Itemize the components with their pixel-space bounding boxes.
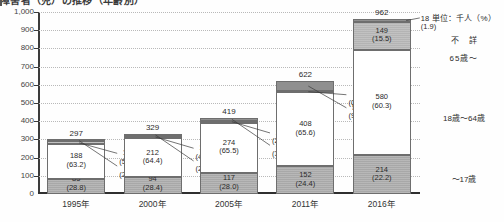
segment-age-18-64[interactable]: 212(64.4) bbox=[124, 138, 182, 177]
y-tick-mark bbox=[34, 158, 39, 159]
legend-item-age-65-plus: 65歳～ bbox=[424, 54, 504, 63]
segment-age-0-17[interactable]: 152(24.4) bbox=[276, 166, 334, 194]
y-tick-label: 1,000 bbox=[0, 8, 34, 16]
bar-value: 117 bbox=[223, 173, 235, 182]
segment-age-0-17[interactable]: 94(28.4) bbox=[124, 177, 182, 194]
segment-age-0-17[interactable]: 117(28.0) bbox=[200, 173, 258, 194]
bar-total-label: 297 bbox=[47, 129, 105, 138]
bar-percent: (60.3) bbox=[354, 102, 410, 111]
bar-percent: (64.4) bbox=[125, 157, 181, 166]
y-tick-label: 600 bbox=[0, 81, 34, 89]
bar-2000年[interactable]: 94(28.4)212(64.4) bbox=[124, 134, 182, 194]
bar-percent: (15.5) bbox=[354, 35, 410, 44]
label-age-18-64: 580(60.3) bbox=[354, 93, 410, 110]
segment-unknown[interactable] bbox=[47, 139, 105, 141]
segment-age-18-64[interactable]: 580(60.3) bbox=[353, 50, 411, 156]
segment-age-0-17[interactable]: 214(22.2) bbox=[353, 155, 411, 194]
y-tick-label: 200 bbox=[0, 154, 34, 162]
bar-total-label: 962 bbox=[353, 8, 411, 17]
plot-area: 85(28.8)188(63.2)29716(5.4)8(2.6)94(28.4… bbox=[38, 12, 420, 194]
bar-value: 408 bbox=[299, 119, 312, 128]
bar-2005年[interactable]: 117(28.0)274(65.5) bbox=[200, 118, 258, 194]
segment-unknown[interactable] bbox=[124, 134, 182, 136]
bar-2011年[interactable]: 152(24.4)408(65.6) bbox=[276, 81, 334, 194]
y-tick-mark bbox=[34, 67, 39, 68]
legend: 単位：千人（%） 不 詳 65歳～ 18歳～64歳 ～17歳 bbox=[424, 12, 504, 194]
segment-unknown[interactable] bbox=[353, 19, 411, 22]
segment-age-65-plus[interactable]: 149(15.5) bbox=[353, 22, 411, 49]
y-axis-ticks: 1,0009008007006005004003002001000 bbox=[0, 12, 34, 194]
bar-1995年[interactable]: 85(28.8)188(63.2) bbox=[47, 140, 105, 194]
segment-age-18-64[interactable]: 274(65.5) bbox=[200, 123, 258, 173]
bar-percent: (24.4) bbox=[277, 180, 333, 189]
segment-unknown[interactable] bbox=[276, 81, 334, 92]
y-tick-mark bbox=[34, 30, 39, 31]
y-tick-mark bbox=[34, 121, 39, 122]
bar-total-label: 329 bbox=[124, 123, 182, 132]
label-age-18-64: 212(64.4) bbox=[125, 149, 181, 166]
y-tick-mark bbox=[34, 176, 39, 177]
y-tick-mark bbox=[34, 103, 39, 104]
x-tick-label: 2000年 bbox=[123, 200, 183, 209]
page-title: 障害者（児）の推移（年齢別） bbox=[0, 0, 232, 6]
bar-total-label: 419 bbox=[200, 107, 258, 116]
bar-total-label: 622 bbox=[276, 70, 334, 79]
label-age-0-17: 94(28.4) bbox=[125, 175, 181, 192]
label-age-18-64: 408(65.6) bbox=[277, 120, 333, 137]
bar-percent: (65.5) bbox=[201, 147, 257, 156]
segment-age-65-plus[interactable] bbox=[124, 136, 182, 139]
bar-percent: (65.6) bbox=[277, 129, 333, 138]
bar-percent: (22.2) bbox=[354, 174, 410, 183]
x-tick-label: 2011年 bbox=[275, 200, 335, 209]
segment-age-18-64[interactable]: 188(63.2) bbox=[47, 144, 105, 178]
y-tick-mark bbox=[34, 85, 39, 86]
bar-percent: (28.0) bbox=[201, 183, 257, 192]
segment-age-65-plus[interactable] bbox=[200, 121, 258, 123]
segment-age-65-plus[interactable] bbox=[47, 141, 105, 144]
bar-2016年[interactable]: 214(22.2)580(60.3)149(15.5) bbox=[353, 19, 411, 194]
y-tick-label: 700 bbox=[0, 63, 34, 71]
x-tick-label: 2016年 bbox=[352, 200, 412, 209]
segment-age-0-17[interactable]: 85(28.8) bbox=[47, 179, 105, 194]
label-age-0-17: 152(24.4) bbox=[277, 171, 333, 188]
y-tick-label: 0 bbox=[0, 190, 34, 198]
segment-unknown[interactable] bbox=[200, 118, 258, 121]
y-tick-mark bbox=[34, 12, 39, 13]
y-tick-label: 400 bbox=[0, 117, 34, 125]
y-tick-label: 800 bbox=[0, 44, 34, 52]
label-age-0-17: 214(22.2) bbox=[354, 166, 410, 183]
y-tick-label: 300 bbox=[0, 135, 34, 143]
y-tick-label: 100 bbox=[0, 172, 34, 180]
chart-root: 障害者（児）の推移（年齢別） 85(28.8)188(63.2)29716(5.… bbox=[0, 0, 504, 222]
bar-value: 152 bbox=[299, 170, 312, 179]
label-age-18-64: 188(63.2) bbox=[48, 152, 104, 169]
x-tick-label: 2005年 bbox=[199, 200, 259, 209]
label-age-65-plus: 149(15.5) bbox=[354, 27, 410, 44]
legend-item-unknown: 不 詳 bbox=[424, 36, 504, 45]
bar-value: 580 bbox=[376, 92, 389, 101]
bar-percent: (28.8) bbox=[48, 184, 104, 193]
legend-item-age-18-64: 18歳～64歳 bbox=[424, 114, 504, 123]
y-tick-label: 500 bbox=[0, 99, 34, 107]
label-age-0-17: 117(28.0) bbox=[201, 174, 257, 191]
y-tick-mark bbox=[34, 48, 39, 49]
bar-percent: (28.4) bbox=[125, 184, 181, 193]
bar-percent: (63.2) bbox=[48, 161, 104, 170]
y-tick-label: 900 bbox=[0, 26, 34, 34]
legend-item-age-0-17: ～17歳 bbox=[424, 175, 504, 184]
y-tick-mark bbox=[34, 139, 39, 140]
label-age-18-64: 274(65.5) bbox=[201, 139, 257, 156]
legend-unit-label: 単位：千人（%） bbox=[424, 14, 504, 23]
x-tick-label: 1995年 bbox=[46, 200, 106, 209]
segment-age-18-64[interactable]: 408(65.6) bbox=[276, 92, 334, 166]
